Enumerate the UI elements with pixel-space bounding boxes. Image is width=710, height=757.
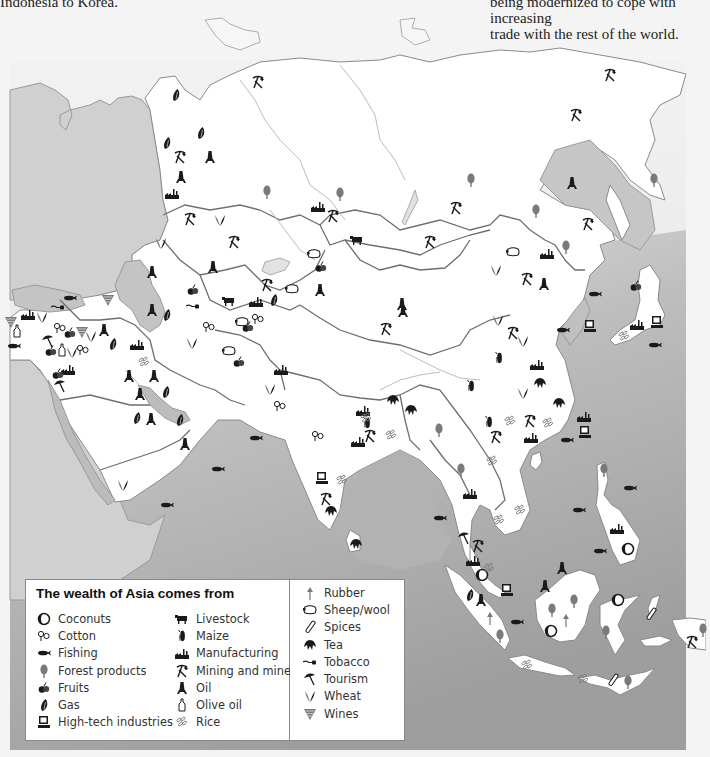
legend-title: The wealth of Asia comes from	[36, 586, 234, 601]
caption-right-line2: trade with the rest of the world.	[490, 26, 710, 42]
factory-icon	[466, 553, 480, 567]
fruit-icon	[629, 279, 643, 293]
cotton-icon	[202, 320, 216, 334]
tree-icon	[545, 603, 559, 617]
tree-icon	[464, 173, 478, 187]
fish-icon	[648, 338, 662, 352]
gas-flame-icon	[160, 136, 174, 150]
fish-icon	[556, 323, 570, 337]
computer-icon	[650, 315, 664, 329]
wheat-icon	[491, 313, 505, 327]
fish-icon	[36, 646, 52, 660]
maize-icon	[482, 415, 496, 429]
pickaxe-hammer-icon	[227, 235, 241, 249]
rice-icon	[335, 473, 349, 487]
tree-icon	[493, 629, 507, 643]
oil-derrick-icon	[174, 681, 190, 695]
maize-icon	[174, 629, 190, 643]
cow-icon	[350, 233, 364, 247]
legend-item-rubber: Rubber	[302, 584, 390, 601]
fish-icon	[211, 462, 225, 476]
tobacco-pipe-icon	[186, 299, 200, 313]
factory-icon	[174, 646, 190, 660]
spice-icon	[644, 607, 658, 621]
tree-icon	[454, 463, 468, 477]
tree-icon	[567, 594, 581, 608]
factory-icon	[311, 199, 325, 213]
factory-icon	[274, 362, 288, 376]
grapes-icon	[101, 293, 115, 307]
computer-icon	[578, 425, 592, 439]
oil-derrick-icon	[174, 170, 188, 184]
pickaxe-hammer-icon	[251, 75, 265, 89]
cotton-icon	[36, 629, 52, 643]
rice-icon	[541, 416, 555, 430]
gas-flame-icon	[130, 411, 144, 425]
wheat-icon	[154, 236, 168, 250]
tree-icon	[621, 675, 635, 689]
cow-icon	[174, 612, 190, 626]
tea-leaf-icon	[404, 403, 418, 417]
gas-flame-icon	[173, 413, 187, 427]
umbrella-icon	[302, 672, 318, 686]
oil-derrick-icon	[133, 387, 147, 401]
caption-left: Indonesia to Korea.	[0, 0, 118, 10]
factory-icon	[530, 357, 544, 371]
factory-icon	[165, 186, 179, 200]
oil-derrick-icon	[145, 303, 159, 317]
coconut-icon	[611, 593, 625, 607]
cotton-icon	[273, 399, 287, 413]
sheep-icon	[302, 603, 318, 617]
pickaxe-hammer-icon	[183, 212, 197, 226]
umbrella-icon	[457, 531, 471, 545]
pickaxe-hammer-icon	[173, 150, 187, 164]
olive-oil-bottle-icon	[174, 698, 190, 712]
rubber-tree-icon	[559, 613, 573, 627]
computer-icon	[500, 583, 514, 597]
legend-item-tobacco: Tobacco	[302, 653, 390, 670]
pickaxe-hammer-icon	[489, 430, 503, 444]
sheep-icon	[506, 245, 520, 259]
spice-icon	[606, 673, 620, 687]
legend-item-cotton: Cotton	[36, 627, 173, 644]
wheat-icon	[185, 336, 199, 350]
legend-item-tourism: Tourism	[302, 670, 390, 687]
rice-icon	[359, 411, 373, 425]
fruit-icon	[232, 355, 246, 369]
rubber-tree-icon	[302, 586, 318, 600]
pickaxe-hammer-icon	[363, 429, 377, 443]
rubber-tree-icon	[483, 611, 497, 625]
tea-leaf-icon	[349, 537, 363, 551]
cow-icon	[222, 294, 236, 308]
fruit-icon	[186, 283, 200, 297]
gas-flame-icon	[106, 337, 120, 351]
fish-icon	[433, 511, 447, 525]
pickaxe-hammer-icon	[260, 278, 274, 292]
sheep-icon	[307, 247, 321, 261]
pickaxe-hammer-icon	[506, 326, 520, 340]
tobacco-pipe-icon	[51, 300, 65, 314]
gas-flame-icon	[159, 385, 173, 399]
tea-leaf-icon	[552, 396, 566, 410]
tea-leaf-icon	[302, 638, 318, 652]
cotton-icon	[76, 343, 90, 357]
tea-leaf-icon	[386, 393, 400, 407]
factory-icon	[577, 409, 591, 423]
fish-icon	[249, 431, 263, 445]
rice-icon	[576, 672, 590, 686]
umbrella-icon	[53, 379, 67, 393]
pickaxe-hammer-icon	[326, 209, 340, 223]
grapes-icon	[302, 707, 318, 721]
fruit-icon	[314, 260, 328, 274]
coconut-icon	[36, 612, 52, 626]
oil-derrick-icon	[555, 561, 569, 575]
rice-icon	[174, 715, 190, 729]
tree-icon	[333, 187, 347, 201]
tree-icon	[432, 423, 446, 437]
oil-derrick-icon	[122, 369, 136, 383]
pickaxe-hammer-icon	[174, 664, 190, 678]
rice-icon	[520, 658, 534, 672]
wheat-icon	[35, 310, 49, 324]
legend-item-sheep: Sheep/wool	[302, 601, 390, 618]
oil-derrick-icon	[147, 369, 161, 383]
